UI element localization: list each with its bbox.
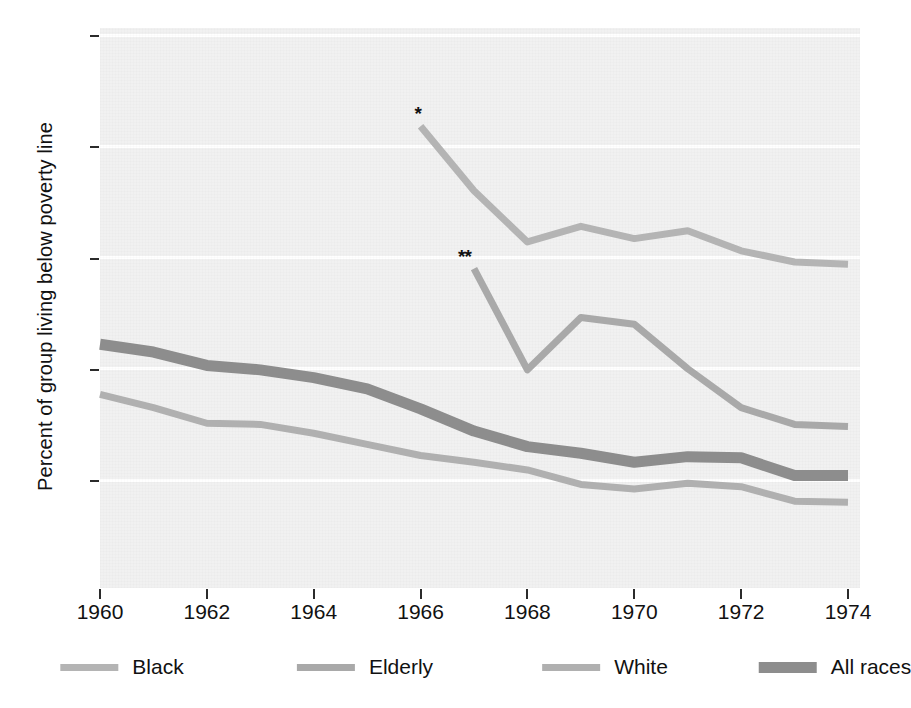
y-tick-mark-10 [90, 480, 99, 482]
legend-swatch-white [542, 664, 600, 671]
x-tick-label-1962: 1962 [183, 600, 230, 624]
x-tick-mark-1964 [313, 589, 315, 599]
series-line-elderly [474, 269, 848, 427]
series-lines [100, 28, 860, 588]
legend-item-white[interactable]: White [542, 655, 668, 679]
annotation-asterisk-1: * [415, 104, 421, 123]
y-tick-mark-50 [90, 35, 99, 37]
chart-legend: BlackElderlyWhiteAll races [100, 655, 880, 695]
series-line-black [421, 126, 848, 264]
y-tick-mark-30 [90, 258, 99, 260]
x-tick-label-1972: 1972 [718, 600, 765, 624]
legend-swatch-black [60, 664, 118, 671]
y-tick-mark-20 [90, 369, 99, 371]
x-tick-label-1960: 1960 [77, 600, 124, 624]
legend-swatch-all-races [759, 662, 817, 673]
x-tick-mark-1962 [206, 589, 208, 599]
legend-swatch-elderly [297, 664, 355, 671]
legend-item-all-races[interactable]: All races [759, 655, 911, 679]
x-tick-label-1966: 1966 [397, 600, 444, 624]
x-tick-mark-1968 [526, 589, 528, 599]
x-tick-label-1974: 1974 [825, 600, 872, 624]
x-tick-mark-1960 [99, 589, 101, 599]
series-line-all-races [100, 344, 848, 475]
x-tick-mark-1970 [633, 589, 635, 599]
series-line-white [100, 394, 848, 502]
legend-label-black: Black [132, 655, 183, 679]
plot-area: *** [100, 28, 860, 588]
x-tick-label-1964: 1964 [290, 600, 337, 624]
legend-label-white: White [614, 655, 668, 679]
legend-label-elderly: Elderly [369, 655, 433, 679]
x-tick-label-1970: 1970 [611, 600, 658, 624]
legend-label-all-races: All races [831, 655, 911, 679]
legend-item-black[interactable]: Black [60, 655, 183, 679]
y-axis-title: Percent of group living below poverty li… [34, 47, 57, 567]
x-tick-mark-1972 [740, 589, 742, 599]
annotation-asterisk-2: ** [458, 247, 471, 266]
legend-item-elderly[interactable]: Elderly [297, 655, 433, 679]
x-tick-label-1968: 1968 [504, 600, 551, 624]
x-tick-mark-1966 [420, 589, 422, 599]
x-tick-mark-1974 [847, 589, 849, 599]
y-tick-mark-40 [90, 146, 99, 148]
